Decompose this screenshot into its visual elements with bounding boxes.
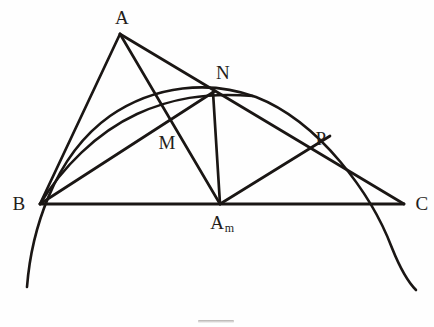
geometry-figure: A B C M N P Am — [0, 0, 434, 327]
point-label-n: N — [216, 63, 230, 82]
point-label-b: B — [13, 194, 26, 213]
outer-arc-path — [27, 87, 416, 290]
point-label-am-subscript: m — [225, 221, 235, 235]
geometry-canvas — [0, 0, 434, 327]
point-label-am-main: A — [210, 212, 224, 233]
caption-fragment — [198, 320, 234, 323]
inner-arc-path — [40, 95, 253, 204]
segment-n-am — [213, 92, 220, 204]
segment-am-p — [220, 136, 330, 204]
point-label-p: P — [316, 129, 327, 148]
point-label-c: C — [416, 194, 429, 213]
point-label-a: A — [115, 8, 129, 27]
point-label-am: Am — [210, 213, 233, 232]
point-label-m: M — [158, 133, 175, 152]
